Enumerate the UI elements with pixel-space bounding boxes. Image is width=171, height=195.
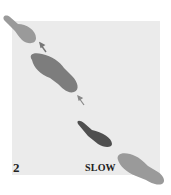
arrow-icon xyxy=(78,96,84,105)
arrow-icon xyxy=(40,43,46,52)
footprint-icon xyxy=(31,53,78,92)
speed-label: SLOW xyxy=(85,162,116,173)
footprint-icon xyxy=(3,16,36,44)
panel-number: 2 xyxy=(13,160,20,176)
footprint-icon xyxy=(77,121,112,147)
footprint-icon xyxy=(118,153,164,184)
